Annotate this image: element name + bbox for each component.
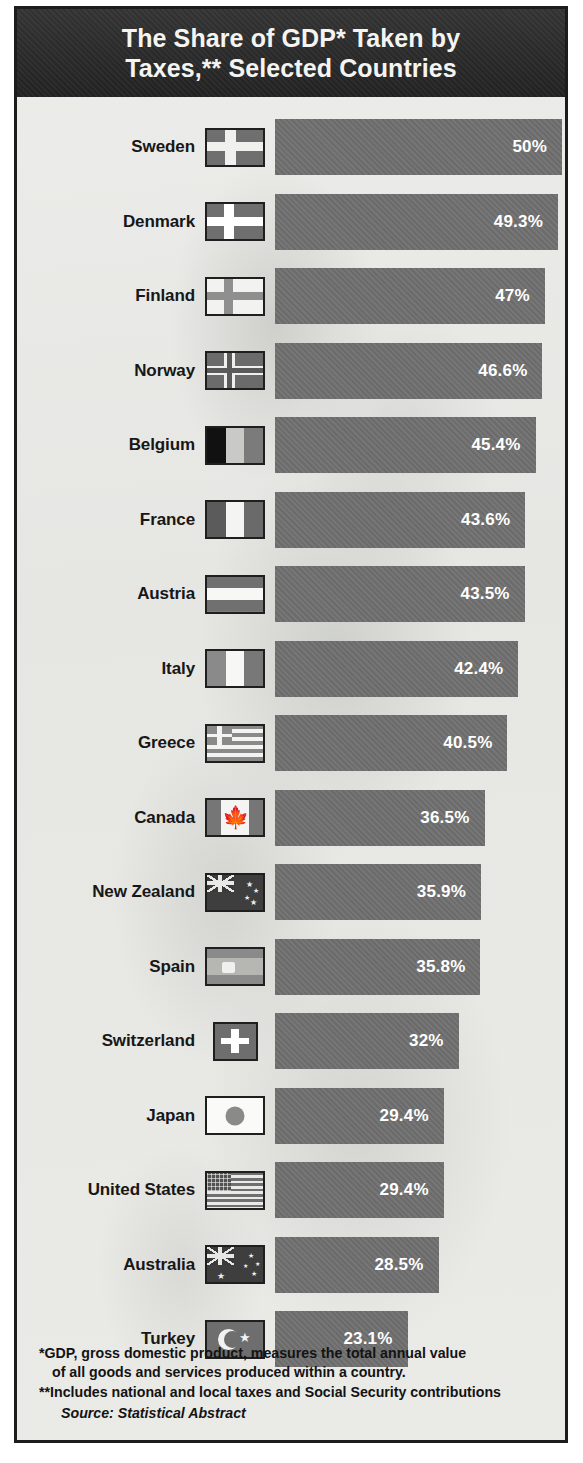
bar-track: 29.4% xyxy=(275,1162,565,1218)
flag-cell xyxy=(195,128,275,167)
bar-track: 45.4% xyxy=(275,417,565,473)
flag-cell: ★★★★ xyxy=(195,873,275,912)
value-bar: 35.8% xyxy=(275,939,480,995)
flag-denmark-icon xyxy=(205,202,265,241)
country-label: New Zealand xyxy=(17,882,195,902)
infographic-poster: The Share of GDP* Taken by Taxes,** Sele… xyxy=(14,6,568,1443)
flag-united-states-icon xyxy=(205,1171,265,1210)
country-label: Switzerland xyxy=(17,1031,195,1051)
value-bar: 49.3% xyxy=(275,194,558,250)
flag-norway-icon xyxy=(205,351,265,390)
value-bar: 43.5% xyxy=(275,566,525,622)
bar-track: 36.5% xyxy=(275,790,565,846)
value-bar: 43.6% xyxy=(275,492,525,548)
value-bar: 29.4% xyxy=(275,1088,444,1144)
bar-value-label: 47% xyxy=(495,286,545,306)
bar-value-label: 43.5% xyxy=(460,584,524,604)
flag-japan-icon xyxy=(205,1096,265,1135)
flag-cell xyxy=(195,575,275,614)
country-label: United States xyxy=(17,1180,195,1200)
flag-cell xyxy=(195,947,275,986)
chart-row: France43.6% xyxy=(17,492,565,548)
chart-row: Australia★★★★★28.5% xyxy=(17,1237,565,1293)
chart-row: Spain35.8% xyxy=(17,939,565,995)
bar-value-label: 35.8% xyxy=(416,957,480,977)
bar-track: 46.6% xyxy=(275,343,565,399)
footnote-gdp-line-1: *GDP, gross domestic product, measures t… xyxy=(39,1344,551,1364)
flag-cell: ★★★★★ xyxy=(195,1245,275,1284)
title-line-1: The Share of GDP* Taken by xyxy=(122,24,460,52)
bar-track: 50% xyxy=(275,119,565,175)
value-bar: 40.5% xyxy=(275,715,507,771)
flag-sweden-icon xyxy=(205,128,265,167)
flag-austria-icon xyxy=(205,575,265,614)
bar-value-label: 35.9% xyxy=(417,882,481,902)
page-title: The Share of GDP* Taken by Taxes,** Sele… xyxy=(96,23,486,84)
value-bar: 29.4% xyxy=(275,1162,444,1218)
bar-track: 28.5% xyxy=(275,1237,565,1293)
country-label: Denmark xyxy=(17,212,195,232)
value-bar: 50% xyxy=(275,119,562,175)
bar-value-label: 36.5% xyxy=(420,808,484,828)
bar-track: 43.5% xyxy=(275,566,565,622)
value-bar: 28.5% xyxy=(275,1237,439,1293)
chart-row: Austria43.5% xyxy=(17,566,565,622)
chart-row: Canada🍁36.5% xyxy=(17,790,565,846)
source-line: Source: Statistical Abstract xyxy=(39,1404,551,1424)
bar-value-label: 29.4% xyxy=(380,1180,444,1200)
flag-belgium-icon xyxy=(205,426,265,465)
bar-value-label: 46.6% xyxy=(478,361,542,381)
country-label: Canada xyxy=(17,808,195,828)
value-bar: 46.6% xyxy=(275,343,542,399)
flag-finland-icon xyxy=(205,277,265,316)
country-label: Spain xyxy=(17,957,195,977)
bar-track: 47% xyxy=(275,268,565,324)
country-label: France xyxy=(17,510,195,530)
bar-value-label: 42.4% xyxy=(454,659,518,679)
chart-row: Italy42.4% xyxy=(17,641,565,697)
header-band: The Share of GDP* Taken by Taxes,** Sele… xyxy=(17,9,565,97)
chart-row: United States29.4% xyxy=(17,1162,565,1218)
title-line-2: Taxes,** Selected Countries xyxy=(125,54,457,82)
value-bar: 35.9% xyxy=(275,864,481,920)
flag-switzerland-icon xyxy=(213,1022,258,1061)
bar-track: 40.5% xyxy=(275,715,565,771)
bar-value-label: 49.3% xyxy=(494,212,558,232)
chart-row: Norway46.6% xyxy=(17,343,565,399)
flag-cell xyxy=(195,724,275,763)
chart-row: Japan29.4% xyxy=(17,1088,565,1144)
bar-value-label: 43.6% xyxy=(461,510,525,530)
source-label: Source: xyxy=(61,1405,114,1421)
flag-cell xyxy=(195,1096,275,1135)
country-label: Italy xyxy=(17,659,195,679)
flag-france-icon xyxy=(205,500,265,539)
bar-value-label: 28.5% xyxy=(374,1255,438,1275)
footnotes: *GDP, gross domestic product, measures t… xyxy=(39,1344,551,1425)
bar-value-label: 29.4% xyxy=(380,1106,444,1126)
chart-row: Sweden50% xyxy=(17,119,565,175)
flag-cell xyxy=(195,1022,275,1061)
bar-chart: Sweden50%Denmark49.3%Finland47%Norway46.… xyxy=(17,97,565,1440)
country-label: Austria xyxy=(17,584,195,604)
bar-value-label: 40.5% xyxy=(443,733,507,753)
source-value: Statistical Abstract xyxy=(114,1405,246,1421)
country-label: Norway xyxy=(17,361,195,381)
bar-value-label: 50% xyxy=(512,137,562,157)
bar-track: 49.3% xyxy=(275,194,565,250)
bar-track: 42.4% xyxy=(275,641,565,697)
country-label: Finland xyxy=(17,286,195,306)
flag-italy-icon xyxy=(205,649,265,688)
chart-row: Denmark49.3% xyxy=(17,194,565,250)
flag-cell: 🍁 xyxy=(195,798,275,837)
flag-cell xyxy=(195,351,275,390)
bar-track: 32% xyxy=(275,1013,565,1069)
flag-cell xyxy=(195,1171,275,1210)
flag-cell xyxy=(195,277,275,316)
chart-row: New Zealand★★★★35.9% xyxy=(17,864,565,920)
flag-canada-icon: 🍁 xyxy=(205,798,265,837)
bar-track: 35.9% xyxy=(275,864,565,920)
chart-row: Belgium45.4% xyxy=(17,417,565,473)
flag-cell xyxy=(195,649,275,688)
flag-new-zealand-icon: ★★★★ xyxy=(205,873,265,912)
flag-spain-icon xyxy=(205,947,265,986)
